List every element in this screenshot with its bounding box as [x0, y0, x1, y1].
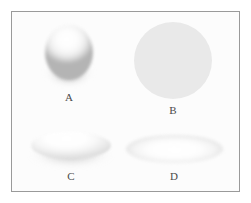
disc-shape-c — [31, 132, 111, 159]
figure-panel: A B C D — [0, 0, 251, 203]
ellipse-shape-d — [126, 135, 223, 163]
circle-shape-b — [134, 22, 212, 99]
shape-label-d: D — [164, 171, 184, 182]
shape-label-a: A — [59, 92, 79, 103]
sphere-shape-a — [45, 25, 93, 80]
shape-label-c: C — [61, 171, 81, 182]
figure-canvas: A B C D — [12, 12, 239, 191]
shape-label-b: B — [163, 105, 183, 116]
